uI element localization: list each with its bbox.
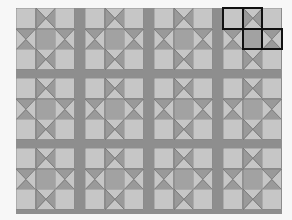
corner-square[interactable] — [262, 119, 282, 140]
hourglass-square[interactable] — [243, 189, 263, 210]
hourglass-square[interactable] — [174, 189, 194, 210]
center-square[interactable] — [243, 29, 263, 50]
hourglass-square[interactable] — [154, 169, 174, 190]
corner-square[interactable] — [262, 148, 282, 169]
hourglass-square[interactable] — [105, 8, 125, 29]
hourglass-square[interactable] — [193, 169, 213, 190]
hourglass-square[interactable] — [36, 119, 56, 140]
hourglass-square[interactable] — [105, 148, 125, 169]
corner-square[interactable] — [154, 8, 174, 29]
center-square[interactable] — [243, 99, 263, 120]
corner-square[interactable] — [223, 189, 243, 210]
center-square[interactable] — [174, 29, 194, 50]
corner-square[interactable] — [16, 8, 36, 29]
hourglass-square[interactable] — [243, 148, 263, 169]
center-square[interactable] — [174, 99, 194, 120]
hourglass-square[interactable] — [154, 99, 174, 120]
corner-square[interactable] — [262, 78, 282, 99]
corner-square[interactable] — [85, 189, 105, 210]
hourglass-square[interactable] — [243, 119, 263, 140]
corner-square[interactable] — [193, 189, 213, 210]
corner-square[interactable] — [193, 148, 213, 169]
corner-square[interactable] — [85, 8, 105, 29]
corner-square[interactable] — [193, 8, 213, 29]
hourglass-square[interactable] — [174, 8, 194, 29]
corner-square[interactable] — [154, 148, 174, 169]
corner-square[interactable] — [262, 49, 282, 70]
corner-square[interactable] — [223, 119, 243, 140]
corner-square[interactable] — [55, 119, 75, 140]
center-square[interactable] — [105, 29, 125, 50]
hourglass-square[interactable] — [85, 99, 105, 120]
corner-square[interactable] — [124, 8, 144, 29]
center-square[interactable] — [36, 29, 56, 50]
hourglass-square[interactable] — [223, 99, 243, 120]
corner-square[interactable] — [85, 119, 105, 140]
corner-square[interactable] — [223, 78, 243, 99]
corner-square[interactable] — [154, 189, 174, 210]
hourglass-square[interactable] — [55, 29, 75, 50]
hourglass-square[interactable] — [105, 119, 125, 140]
hourglass-square[interactable] — [36, 78, 56, 99]
corner-square[interactable] — [262, 189, 282, 210]
hourglass-square[interactable] — [193, 99, 213, 120]
corner-square[interactable] — [124, 78, 144, 99]
corner-square[interactable] — [154, 49, 174, 70]
hourglass-square[interactable] — [223, 169, 243, 190]
corner-square[interactable] — [55, 78, 75, 99]
center-square[interactable] — [105, 169, 125, 190]
corner-square[interactable] — [193, 78, 213, 99]
corner-square[interactable] — [154, 119, 174, 140]
center-square[interactable] — [243, 169, 263, 190]
center-square[interactable] — [174, 169, 194, 190]
hourglass-square[interactable] — [154, 29, 174, 50]
hourglass-square[interactable] — [105, 78, 125, 99]
hourglass-square[interactable] — [36, 189, 56, 210]
corner-square[interactable] — [85, 78, 105, 99]
corner-square[interactable] — [223, 8, 243, 29]
corner-square[interactable] — [16, 189, 36, 210]
corner-square[interactable] — [193, 49, 213, 70]
corner-square[interactable] — [85, 148, 105, 169]
hourglass-square[interactable] — [262, 29, 282, 50]
hourglass-square[interactable] — [16, 29, 36, 50]
corner-square[interactable] — [16, 78, 36, 99]
hourglass-square[interactable] — [174, 119, 194, 140]
hourglass-square[interactable] — [55, 99, 75, 120]
hourglass-square[interactable] — [55, 169, 75, 190]
hourglass-square[interactable] — [105, 189, 125, 210]
corner-square[interactable] — [124, 148, 144, 169]
corner-square[interactable] — [223, 49, 243, 70]
hourglass-square[interactable] — [262, 169, 282, 190]
corner-square[interactable] — [55, 189, 75, 210]
center-square[interactable] — [105, 99, 125, 120]
center-square[interactable] — [36, 169, 56, 190]
hourglass-square[interactable] — [16, 169, 36, 190]
hourglass-square[interactable] — [124, 99, 144, 120]
hourglass-square[interactable] — [174, 49, 194, 70]
hourglass-square[interactable] — [85, 29, 105, 50]
hourglass-square[interactable] — [124, 29, 144, 50]
hourglass-square[interactable] — [243, 8, 263, 29]
corner-square[interactable] — [223, 148, 243, 169]
hourglass-square[interactable] — [36, 148, 56, 169]
hourglass-square[interactable] — [174, 78, 194, 99]
corner-square[interactable] — [124, 49, 144, 70]
hourglass-square[interactable] — [124, 169, 144, 190]
corner-square[interactable] — [154, 78, 174, 99]
corner-square[interactable] — [124, 119, 144, 140]
hourglass-square[interactable] — [193, 29, 213, 50]
hourglass-square[interactable] — [223, 29, 243, 50]
hourglass-square[interactable] — [85, 169, 105, 190]
corner-square[interactable] — [193, 119, 213, 140]
hourglass-square[interactable] — [16, 99, 36, 120]
corner-square[interactable] — [16, 119, 36, 140]
hourglass-square[interactable] — [36, 8, 56, 29]
corner-square[interactable] — [55, 8, 75, 29]
hourglass-square[interactable] — [174, 148, 194, 169]
hourglass-square[interactable] — [243, 78, 263, 99]
corner-square[interactable] — [55, 148, 75, 169]
corner-square[interactable] — [262, 8, 282, 29]
corner-square[interactable] — [55, 49, 75, 70]
center-square[interactable] — [36, 99, 56, 120]
